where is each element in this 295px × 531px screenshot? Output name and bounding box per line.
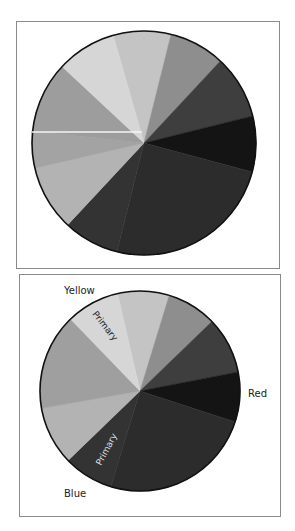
label-red: Red [248,388,267,399]
label-blue: Blue [64,488,86,499]
bottom-pie-chart [40,291,240,491]
label-yellow: Yellow [63,285,95,296]
top-pie-chart [32,31,256,255]
pie-charts: Yellow Red Blue Primary Primary [0,0,295,531]
